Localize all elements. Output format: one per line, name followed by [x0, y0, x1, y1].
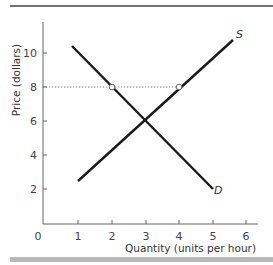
supply-demand-chart: 10 8 6 4 2 0 1 2 3 4 5 6 Quantity (units… — [0, 0, 273, 265]
y-axis-title: Price (dollars) — [10, 44, 22, 116]
origin-label: 0 — [35, 230, 42, 243]
x-ticks — [78, 220, 246, 224]
y-tick-labels: 10 8 6 4 2 — [23, 47, 37, 196]
y-ticks — [43, 53, 47, 189]
y-tick-6: 6 — [30, 115, 37, 128]
bottom-rule — [10, 257, 273, 262]
y-tick-10: 10 — [23, 47, 37, 60]
x-tick-1: 1 — [75, 230, 82, 243]
supply-point-marker — [176, 84, 182, 90]
demand-label: D — [214, 184, 222, 197]
y-tick-8: 8 — [30, 81, 37, 94]
y-tick-4: 4 — [30, 149, 37, 162]
supply-curve — [78, 40, 233, 181]
supply-label: S — [236, 28, 243, 41]
y-tick-2: 2 — [30, 183, 37, 196]
x-tick-2: 2 — [109, 230, 116, 243]
demand-point-marker — [109, 84, 115, 90]
x-axis-title: Quantity (units per hour) — [125, 242, 256, 254]
